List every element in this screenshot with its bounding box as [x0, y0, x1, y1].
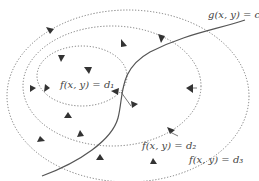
- arrow-icon: [96, 154, 104, 160]
- arrow-icon: [150, 158, 157, 164]
- constraint-curve: [42, 20, 245, 176]
- constraint-label: g(x, y) = c: [208, 10, 259, 20]
- arrow-icon: [77, 130, 84, 137]
- arrow-icon: [58, 55, 65, 62]
- contour-label-d2: f(x, y) = d₂: [142, 141, 196, 151]
- arrow-icon: [186, 84, 193, 93]
- arrow-icon: [44, 84, 50, 92]
- contour-label-d3: f(x, y) = d₃: [189, 155, 243, 165]
- arrow-icon: [46, 27, 54, 34]
- contour-d1: [37, 46, 127, 106]
- arrow-icon: [64, 112, 72, 118]
- arrow-icon: [30, 85, 36, 92]
- arrow-icon: [167, 127, 175, 134]
- arrow-icon: [37, 136, 45, 142]
- arrow-icon: [131, 101, 138, 108]
- arrow-icon: [121, 39, 127, 47]
- contour-label-d1: f(x, y) = d₁: [60, 80, 114, 90]
- arrow-icon: [84, 67, 92, 74]
- arrow-icon: [158, 34, 165, 43]
